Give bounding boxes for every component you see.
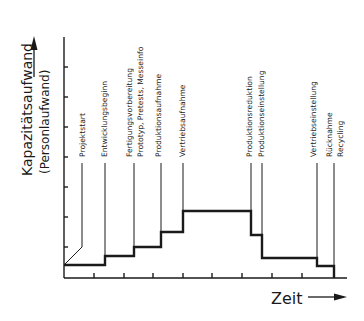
x-axis	[64, 273, 347, 278]
arrow-right-icon	[308, 294, 347, 301]
event-label-produktionsaufnahme: Produktionsaufnahme	[154, 74, 163, 157]
event-label-entwicklungsbeginn: Entwicklungsbeginn	[100, 81, 109, 157]
y-axis-label-group: Kapazitätsaufwand (Personlaufwand)	[19, 36, 52, 176]
event-label-vertriebsaufnahme: Vertriebsaufnahme	[178, 84, 187, 157]
event-label-recycling: Recycling	[336, 121, 345, 157]
event-labels: Projektstart Entwicklungsbeginn Fertigun…	[78, 46, 345, 157]
event-label-projektstart: Projektstart	[78, 113, 87, 157]
lifecycle-capacity-diagram: Kapazitätsaufwand (Personlaufwand) Zeit	[0, 0, 364, 321]
y-axis	[64, 37, 68, 278]
x-axis-label: Zeit	[271, 289, 303, 308]
event-lines	[64, 163, 334, 266]
event-label-produktionsreduktion: Produktionsreduktion	[245, 76, 254, 157]
event-label-ruecknahme: Rücknahme	[325, 112, 334, 157]
event-label-fertigungsvorbereitung: Fertigungsvorbereitung	[125, 68, 134, 157]
event-line-projektstart	[64, 163, 82, 265]
event-label-vertriebseinstellung: Vertriebseinstellung	[309, 81, 318, 157]
y-axis-sublabel: (Personlaufwand)	[38, 70, 52, 174]
event-label-produktionseinstellung: Produktionseinstellung	[257, 70, 266, 157]
event-label-prototyp: Prototyp, Pretests, Messeinfo	[136, 46, 145, 157]
y-axis-label: Kapazitätsaufwand	[19, 43, 35, 176]
